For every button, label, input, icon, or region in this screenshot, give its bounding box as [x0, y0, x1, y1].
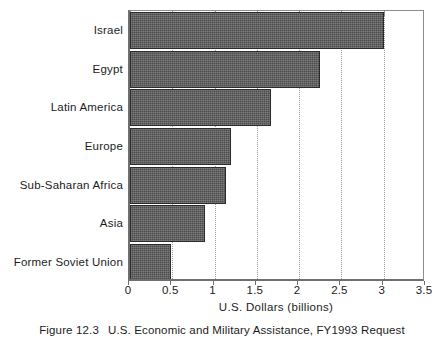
category-label-sub-saharan-africa: Sub-Saharan Africa: [0, 179, 123, 191]
bar-europe[interactable]: [130, 128, 231, 165]
x-tick-label-0: 0: [108, 284, 148, 297]
x-tick-label-1_5: 1.5: [235, 284, 275, 297]
category-label-israel: Israel: [0, 24, 123, 36]
x-tick-label-1: 1: [193, 284, 233, 297]
x-tick-label-2_5: 2.5: [319, 284, 359, 297]
bar-israel[interactable]: [130, 12, 384, 49]
bar-row: [130, 51, 424, 88]
figure-caption-text: U.S. Economic and Military Assistance, F…: [108, 324, 405, 336]
bar-egypt[interactable]: [130, 51, 320, 88]
category-label-europe: Europe: [0, 140, 123, 152]
bar-row: [130, 89, 424, 126]
category-label-former-soviet-union: Former Soviet Union: [0, 256, 123, 268]
figure-caption: Figure 12.3U.S. Economic and Military As…: [0, 324, 444, 336]
x-tick-label-2: 2: [277, 284, 317, 297]
category-label-asia: Asia: [0, 217, 123, 229]
x-tick-label-3: 3: [362, 284, 402, 297]
bar-latin-america[interactable]: [130, 89, 271, 126]
bar-row: [130, 244, 424, 281]
bar-row: [130, 12, 424, 49]
bar-row: [130, 167, 424, 204]
plot-area: [128, 10, 424, 281]
bar-row: [130, 205, 424, 242]
bar-sub-saharan-africa[interactable]: [130, 167, 226, 204]
category-label-latin-america: Latin America: [0, 101, 123, 113]
category-label-egypt: Egypt: [0, 63, 123, 75]
bar-former-soviet-union[interactable]: [130, 244, 171, 281]
figure-bar-chart: IsraelEgyptLatin AmericaEuropeSub-Sahara…: [0, 0, 444, 350]
figure-number: Figure 12.3: [39, 324, 99, 336]
bar-asia[interactable]: [130, 205, 205, 242]
bar-row: [130, 128, 424, 165]
x-axis-title: U.S. Dollars (billions): [128, 301, 424, 313]
x-tick-label-0_5: 0.5: [150, 284, 190, 297]
x-tick-label-3_5: 3.5: [404, 284, 444, 297]
